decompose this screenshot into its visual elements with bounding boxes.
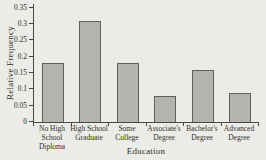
y-tick-label: 0.35 [0, 3, 27, 12]
x-axis-title: Education [127, 146, 165, 156]
x-category-label: Advanced Degree [215, 125, 263, 143]
bar [192, 70, 214, 122]
y-tick-mark [29, 88, 33, 89]
bar [79, 21, 101, 122]
y-tick-label: 0.15 [0, 68, 27, 77]
y-tick-label: 0.05 [0, 101, 27, 110]
y-tick-mark [29, 72, 33, 73]
y-tick-mark [29, 23, 33, 24]
y-tick-mark [29, 39, 33, 40]
y-tick-label: 0.3 [0, 19, 27, 28]
bar [117, 63, 139, 122]
plot-area [33, 4, 259, 123]
bar [154, 96, 176, 122]
y-tick-label: 0.1 [0, 84, 27, 93]
bar [229, 93, 251, 122]
bar-chart: Relative Frequency Education 00.050.10.1… [0, 0, 266, 160]
y-tick-mark [29, 105, 33, 106]
y-tick-mark [29, 7, 33, 8]
y-tick-label: 0 [0, 117, 27, 126]
y-tick-label: 0.2 [0, 52, 27, 61]
bar [42, 63, 64, 122]
y-tick-label: 0.25 [0, 35, 27, 44]
y-tick-mark [29, 56, 33, 57]
